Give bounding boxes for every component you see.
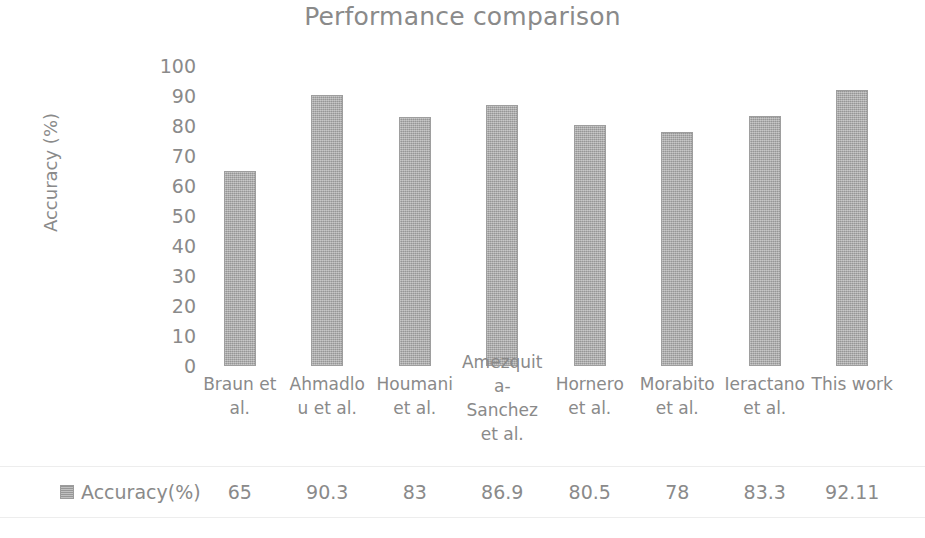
y-axis-label: Accuracy (%) (40, 83, 61, 263)
bar-slot (371, 66, 459, 366)
legend: Accuracy(%) (60, 479, 201, 505)
bar-1[interactable] (224, 171, 256, 366)
y-axis-tick-10: 10 (120, 327, 196, 346)
y-axis-tick-60: 60 (120, 177, 196, 196)
bar-4[interactable] (486, 105, 518, 366)
x-axis-category-layer: Braun et al.Ahmadlou et al.Houmani et al… (196, 372, 896, 458)
y-axis-tick-0: 0 (120, 357, 196, 376)
bar-8[interactable] (836, 90, 868, 366)
data-value-cell: 92.11 (809, 479, 897, 505)
data-value-cell: 83 (371, 479, 459, 505)
y-axis-tick-70: 70 (120, 147, 196, 166)
data-value-cell: 83.3 (721, 479, 809, 505)
x-axis-category-label: Hornero et al. (549, 372, 631, 420)
y-axis-tick-90: 90 (120, 87, 196, 106)
chart-title: Performance comparison (0, 2, 925, 31)
x-axis-category-label: Ahmadlou et al. (287, 372, 369, 420)
bar-slot (459, 66, 547, 366)
bar-slot (721, 66, 809, 366)
x-axis-category-label: Morabito et al. (637, 372, 719, 420)
data-value-cell: 86.9 (459, 479, 547, 505)
legend-label: Accuracy(%) (81, 481, 201, 503)
bar-6[interactable] (661, 132, 693, 366)
data-value-cell: 65 (196, 479, 284, 505)
y-axis-tick-20: 20 (120, 297, 196, 316)
bar-slot (196, 66, 284, 366)
y-axis-tick-40: 40 (120, 237, 196, 256)
bar-7[interactable] (749, 116, 781, 366)
x-axis-category-label: Amezquita-Sanchez et al. (462, 350, 544, 446)
data-table-row: Accuracy(%) 6590.38386.980.57883.392.11 (0, 466, 925, 518)
x-axis-category-label: This work (812, 372, 894, 396)
accuracy-series-swatch-icon (60, 485, 74, 499)
bar-3[interactable] (399, 117, 431, 366)
bar-slot (809, 66, 897, 366)
bar-2[interactable] (311, 95, 343, 366)
data-value-cell: 90.3 (284, 479, 372, 505)
bar-slot (284, 66, 372, 366)
y-axis-tick-100: 100 (120, 57, 196, 76)
data-value-cell: 78 (634, 479, 722, 505)
y-axis-tick-layer: 1009080706050403020100 (120, 58, 196, 368)
plot-area (196, 58, 896, 368)
bar-slot (634, 66, 722, 366)
data-value-cell: 80.5 (546, 479, 634, 505)
bar-slot (546, 66, 634, 366)
x-axis-category-label: Ieractano et al. (724, 372, 806, 420)
y-axis-tick-30: 30 (120, 267, 196, 286)
bar-5[interactable] (574, 125, 606, 367)
x-axis-category-label: Braun et al. (199, 372, 281, 420)
y-axis-tick-80: 80 (120, 117, 196, 136)
x-axis-category-label: Houmani et al. (374, 372, 456, 420)
y-axis-tick-50: 50 (120, 207, 196, 226)
